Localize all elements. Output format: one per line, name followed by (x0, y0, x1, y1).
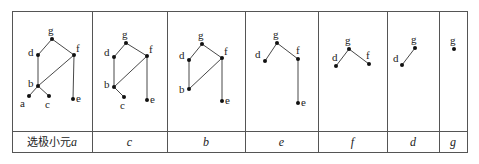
node-f (296, 57, 300, 61)
hasse-diagram-step-6 (400, 46, 417, 67)
node-a (27, 94, 31, 98)
edge-g-d (38, 39, 52, 55)
node-label-d: d (104, 47, 110, 58)
edge-g-d (402, 48, 415, 65)
node-e (296, 101, 300, 105)
caption-variable: d (410, 135, 416, 149)
edge-b-c (114, 87, 124, 97)
node-b (187, 87, 191, 91)
node-label-g: g (122, 29, 128, 40)
node-label-f: f (149, 44, 153, 55)
node-e (220, 99, 224, 103)
node-label-b: b (104, 79, 110, 90)
caption-variable: f (351, 135, 354, 149)
node-label-d: d (179, 50, 185, 61)
node-g (413, 46, 417, 50)
step-caption-2: c (92, 132, 167, 152)
node-g (452, 47, 456, 51)
node-label-a: a (20, 98, 25, 109)
node-d (112, 55, 116, 59)
step-caption-1: 选极小元a (12, 132, 92, 152)
node-label-d: d (332, 52, 338, 63)
hasse-diagram-step-3 (187, 42, 224, 103)
node-label-g: g (411, 34, 417, 45)
node-label-b: b (179, 84, 185, 95)
step-caption-6: d (387, 132, 439, 152)
hasse-diagram-step-2 (112, 41, 149, 102)
node-e (71, 97, 75, 101)
node-label-f: f (76, 43, 80, 54)
node-label-d: d (28, 47, 34, 58)
step-caption-5: f (318, 132, 387, 152)
caption-variable: a (71, 135, 77, 149)
edge-g-f (126, 43, 147, 56)
node-label-f: f (366, 50, 370, 61)
edge-g-f (277, 43, 298, 59)
node-label-c: c (45, 99, 50, 110)
node-label-d: d (255, 49, 261, 60)
edge-g-d (189, 44, 202, 60)
node-label-e: e (150, 94, 155, 105)
step-caption-3: b (167, 132, 245, 152)
caption-variable: b (203, 135, 209, 149)
node-b (112, 85, 116, 89)
caption-prefix: 选极小元 (27, 136, 71, 149)
edge-g-d (265, 43, 277, 61)
node-d (36, 53, 40, 57)
node-g (200, 42, 204, 46)
node-label-e: e (76, 93, 81, 104)
edge-g-f (202, 44, 222, 58)
node-d (263, 59, 267, 63)
step-caption-4: e (245, 132, 318, 152)
node-label-e: e (301, 97, 306, 108)
node-label-b: b (28, 78, 34, 89)
node-d (187, 58, 191, 62)
node-label-g: g (48, 25, 54, 36)
edge-f-b (114, 56, 147, 87)
caption-variable: e (279, 135, 284, 149)
node-label-g: g (198, 30, 204, 41)
node-label-g: g (273, 29, 279, 40)
node-label-c: c (120, 100, 125, 111)
node-label-g: g (345, 35, 351, 46)
node-g (347, 47, 351, 51)
node-g (275, 41, 279, 45)
step-caption-7: g (439, 132, 467, 152)
node-label-d: d (393, 53, 399, 64)
edge-f-e (73, 55, 74, 99)
node-d (334, 64, 338, 68)
edge-g-f (52, 39, 74, 55)
edge-f-b (189, 58, 222, 89)
node-g (50, 37, 54, 41)
node-d (400, 63, 404, 67)
poset-elimination-table: gdfbace选极小元agdfbcecgdfbebgdfeegdffgddgg (0, 0, 479, 164)
edge-b-c (38, 86, 49, 96)
node-e (145, 98, 149, 102)
caption-variable: c (127, 135, 132, 149)
node-label-g: g (450, 35, 456, 46)
hasse-diagram-step-7 (452, 47, 456, 51)
edge-f-b (38, 55, 74, 86)
edge-g-d (114, 43, 126, 57)
node-b (36, 84, 40, 88)
hasse-diagram-step-1 (27, 37, 76, 101)
node-f (367, 62, 371, 66)
node-label-f: f (224, 46, 228, 57)
hasse-diagram-step-4 (263, 41, 300, 105)
node-g (124, 41, 128, 45)
caption-variable: g (450, 135, 456, 149)
node-label-e: e (225, 95, 230, 106)
node-label-f: f (296, 45, 300, 56)
